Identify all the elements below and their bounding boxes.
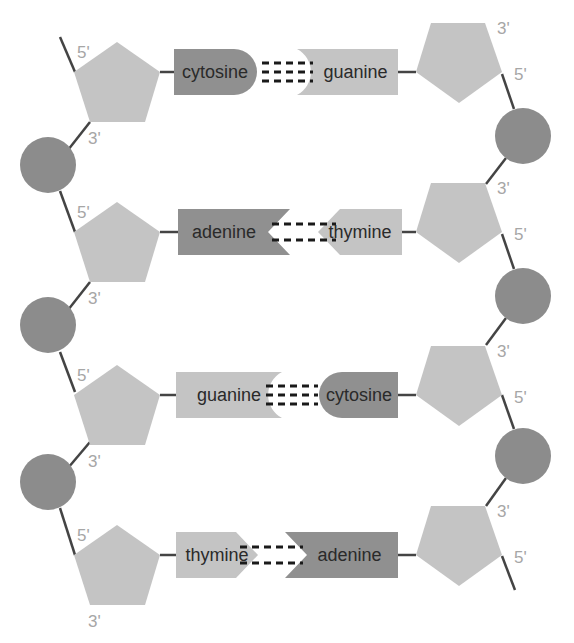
base-label-right: adenine <box>317 545 381 565</box>
prime-label: 3' <box>497 19 510 38</box>
base-pair-row: adeninethymine5'3'3'5' <box>74 179 527 308</box>
backbone-bond <box>502 395 514 429</box>
prime-label: 3' <box>497 502 510 521</box>
phosphate-left-1 <box>20 137 76 193</box>
sugar-right <box>416 346 502 426</box>
prime-label: 5' <box>77 526 90 545</box>
prime-label: 3' <box>88 129 101 148</box>
prime-label: 5' <box>77 203 90 222</box>
sugar-right <box>416 506 502 586</box>
base-pair-row: thymineadenine5'3'3'5' <box>74 502 527 631</box>
backbone-bond <box>68 122 90 150</box>
backbone-bond <box>60 37 75 72</box>
base-label-right: thymine <box>328 222 391 242</box>
phosphate-left-2 <box>20 297 76 353</box>
backbone-bond <box>60 508 75 555</box>
backbone-bond <box>502 74 514 109</box>
base-label-left: guanine <box>197 385 261 405</box>
prime-label: 5' <box>77 43 90 62</box>
base-pair-row: guaninecytosine5'3'3'5' <box>74 342 527 471</box>
backbone-bond <box>68 282 90 310</box>
sugar-right <box>416 23 502 103</box>
prime-label: 5' <box>514 388 527 407</box>
base-label-left: thymine <box>185 545 248 565</box>
prime-label: 3' <box>497 179 510 198</box>
prime-label: 3' <box>497 342 510 361</box>
prime-label: 5' <box>514 225 527 244</box>
prime-label: 5' <box>514 65 527 84</box>
phosphate-right-1 <box>495 108 551 164</box>
prime-label: 3' <box>88 289 101 308</box>
phosphate-right-3 <box>495 428 551 484</box>
dna-diagram: cytosineguanine5'3'3'5'adeninethymine5'3… <box>0 0 574 643</box>
backbone-bond <box>60 352 75 392</box>
base-label-left: cytosine <box>182 62 248 82</box>
phosphate-right-2 <box>495 268 551 324</box>
phosphates <box>20 108 551 510</box>
backbone-bond <box>60 191 75 232</box>
prime-label: 5' <box>514 548 527 567</box>
prime-label: 5' <box>77 366 90 385</box>
backbone-bond <box>486 318 506 345</box>
prime-label: 3' <box>88 452 101 471</box>
prime-label: 3' <box>88 612 101 631</box>
backbone-bond <box>68 442 90 468</box>
backbone-bond <box>502 234 514 269</box>
base-pair-row: cytosineguanine5'3'3'5' <box>74 19 527 148</box>
base-label-left: adenine <box>192 222 256 242</box>
base-label-right: cytosine <box>326 385 392 405</box>
sugar-right <box>416 183 502 263</box>
base-label-right: guanine <box>323 62 387 82</box>
phosphate-left-3 <box>20 454 76 510</box>
